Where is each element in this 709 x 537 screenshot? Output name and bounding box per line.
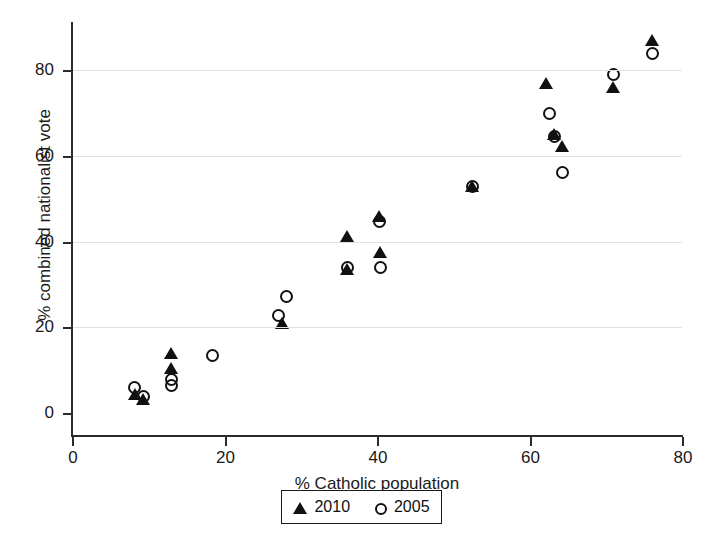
figure-caption-clipped: [0, 0, 709, 12]
y-tick-mark-0: [63, 413, 72, 415]
gridline-y-60: [73, 156, 682, 157]
legend-label-2005: 2005: [394, 498, 430, 516]
y-axis-line: [71, 22, 73, 436]
y-tick-mark-40: [63, 242, 72, 244]
x-tick-mark-0: [72, 437, 74, 446]
x-tick-label-80: 80: [653, 449, 709, 467]
x-tick-mark-80: [682, 437, 684, 446]
y-tick-mark-20: [63, 327, 72, 329]
gridline-y-20: [73, 327, 682, 328]
y-axis-title: % combined nationalist vote: [35, 15, 55, 415]
plot-area: [72, 24, 682, 436]
legend-entry-2005: 2005: [373, 498, 430, 516]
legend-label-2010: 2010: [314, 498, 350, 516]
x-tick-mark-20: [225, 437, 227, 446]
legend: 2010 2005: [281, 490, 442, 524]
y-tick-mark-60: [63, 156, 72, 158]
x-tick-label-40: 40: [348, 449, 408, 467]
gridline-y-40: [73, 242, 682, 243]
x-tick-label-60: 60: [501, 449, 561, 467]
x-tick-mark-40: [377, 437, 379, 446]
legend-entry-2010: 2010: [293, 498, 350, 516]
x-tick-label-20: 20: [196, 449, 256, 467]
open-circle-icon: [373, 500, 387, 514]
y-tick-mark-80: [63, 70, 72, 72]
gridline-y-80: [73, 70, 682, 71]
x-tick-label-0: 0: [43, 449, 103, 467]
x-tick-mark-60: [530, 437, 532, 446]
filled-triangle-icon: [293, 500, 307, 514]
scatter-plot-figure: 020406080 020406080 % Catholic populatio…: [0, 0, 709, 537]
